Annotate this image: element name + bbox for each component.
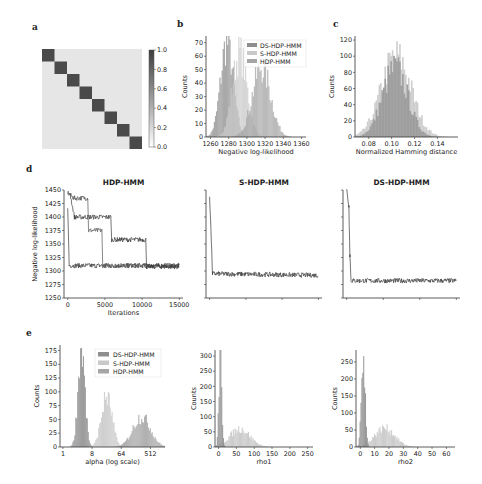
x-tick-label: 30 [399,450,407,458]
x-tick-label: 60 [442,450,450,458]
legend-swatch [98,369,109,374]
x-tick-label: 0.12 [407,140,421,148]
y-tick-label: 20 [195,106,203,114]
y-tick-label: 0 [349,443,353,451]
legend-label: S-HDP-HMM [113,360,150,367]
x-axis-label: rho1 [256,458,271,466]
y-tick-label: 100 [340,52,352,60]
x-tick-label: 1360 [293,140,309,148]
x-tick-label: 8 [90,450,94,458]
subplot-title: HDP-HMM [103,178,145,187]
x-tick-label: 200 [284,450,296,458]
y-tick-label: 1450 [45,186,61,194]
legend-swatch [98,361,109,366]
colorbar-tick-label: 0.2 [157,124,167,132]
legend-label: DS-HDP-HMM [113,351,155,358]
y-tick-label: 250 [200,367,212,375]
x-tick-label: 64 [117,450,125,458]
colorbar-tick-label: 0.0 [157,143,167,151]
figure: a b c d e 0.00.20.40.60.81.0 01020304050… [0,0,482,484]
x-axis-label: Normalized Hamming distance [356,148,458,156]
legend-swatch [247,43,257,47]
y-tick-label: 125 [45,374,57,382]
y-tick-label: 1375 [45,227,61,235]
trace-line [68,191,180,268]
y-tick-label: 50 [49,416,57,424]
legend-label: HDP-HMM [113,368,144,375]
legend-swatch [247,51,257,55]
y-tick-label: 250 [341,358,353,366]
y-tick-label: 100 [45,388,57,396]
x-tick-label: 150 [266,450,278,458]
panel-letter-d: d [26,164,33,174]
x-tick-label: 50 [428,450,436,458]
x-tick-label: 0 [66,301,70,309]
x-tick-label: 1260 [202,140,218,148]
subplot-title: DS-HDP-HMM [373,178,429,187]
y-tick-label: 50 [345,426,353,434]
y-tick-label: 10 [195,120,203,128]
heatmap-diagonal-cell [92,99,105,112]
y-axis-label: Counts [190,386,198,410]
y-tick-label: 1275 [45,281,61,289]
x-tick-label: 0.14 [430,140,444,148]
y-tick-label: 50 [195,66,203,74]
panel-letter-e: e [26,328,32,338]
x-tick-label: 1300 [239,140,255,148]
x-tick-label: 10 [371,450,379,458]
x-axis-label: alpha (log scale) [85,458,140,466]
y-axis-label: Counts [331,386,339,410]
heatmap-diagonal-cell [117,124,130,137]
x-tick-label: 1280 [221,140,237,148]
nll-histogram-panel: 010203040506070126012801300132013401360N… [181,36,310,156]
x-tick-label: 15000 [169,301,189,309]
trace-ds-hdp-hmm-panel: DS-HDP-HMM [341,178,460,300]
x-tick-label: 5000 [97,301,113,309]
x-tick-label: 0 [358,450,362,458]
y-tick-label: 175 [45,347,57,355]
y-tick-label: 1425 [45,200,61,208]
trace-line [70,193,179,269]
legend-label: DS-HDP-HMM [260,42,302,49]
colorbar-tick-label: 0.6 [157,85,167,93]
colorbar [149,50,154,147]
heatmap-diagonal-cell [80,87,93,100]
trace-line [347,189,457,283]
x-tick-label: 1 [61,450,65,458]
y-tick-label: 20 [344,117,352,125]
x-tick-label: 100 [248,450,260,458]
heatmap-panel: 0.00.20.40.60.81.0 [42,46,167,151]
panel-letter-b: b [177,19,183,29]
heatmap-diagonal-cell [67,74,80,87]
y-axis-label: Counts [181,74,189,98]
y-tick-label: 40 [344,101,352,109]
y-tick-label: 40 [195,79,203,87]
y-tick-label: 1350 [45,240,61,248]
y-tick-label: 80 [344,69,352,77]
y-tick-label: 200 [200,383,212,391]
trace-line [210,197,319,278]
y-tick-label: 120 [340,36,352,44]
legend-swatch [98,352,109,357]
y-tick-label: 30 [195,93,203,101]
y-tick-label: 150 [45,360,57,368]
colorbar-tick-label: 0.4 [157,104,167,112]
alpha-histogram-panel: 02550751001251501751864512alpha (log sca… [33,345,165,466]
x-tick-label: 512 [144,450,156,458]
y-tick-label: 200 [341,375,353,383]
legend-label: HDP-HMM [260,58,291,65]
y-axis-label: Negative log-likelihood [31,206,39,282]
y-tick-label: 25 [49,429,57,437]
x-axis-label: rho2 [398,458,413,466]
x-tick-label: 10000 [132,301,152,309]
subplot-title: S-HDP-HMM [239,178,289,187]
heatmap-diagonal-cell [55,62,68,75]
y-tick-label: 100 [200,413,212,421]
y-tick-label: 100 [341,409,353,417]
heatmap-diagonal-cell [105,112,118,125]
colorbar-tick-label: 1.0 [157,46,167,54]
y-tick-label: 1325 [45,254,61,262]
rho2-histogram-panel: 0501001502002500102030405060rho2Counts [331,350,455,466]
x-tick-label: 20 [385,450,393,458]
y-tick-label: 150 [200,398,212,406]
